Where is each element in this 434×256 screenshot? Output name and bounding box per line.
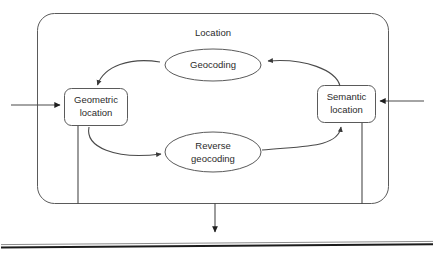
reverse-geocoding-label-line1: Reverse xyxy=(195,140,230,151)
semantic-location-label-line1: Semantic xyxy=(327,91,367,102)
geometric-location-label-line1: Geometric xyxy=(74,94,118,105)
geometric-location-label-line2: location xyxy=(80,107,113,118)
location-container-label: Location xyxy=(195,27,231,38)
reverse-geocoding-node[interactable]: Reverse geocoding xyxy=(165,132,261,172)
page-bottom-rule xyxy=(1,244,433,247)
geometric-location-node[interactable]: Geometric location xyxy=(65,89,128,126)
semantic-location-label-line2: location xyxy=(330,104,363,115)
edge-geocoding-to-geometric xyxy=(98,61,161,85)
geocoding-label: Geocoding xyxy=(190,59,236,70)
location-flow-diagram: Location Geocoding Reverse geocoding Geo… xyxy=(0,0,434,256)
diagram-canvas: Location Geocoding Reverse geocoding Geo… xyxy=(0,0,434,256)
reverse-geocoding-label-line2: geocoding xyxy=(191,153,235,164)
edge-semantic-to-geocoding xyxy=(268,61,340,86)
geocoding-node[interactable]: Geocoding xyxy=(165,49,261,81)
edge-geometric-to-reverse-geocoding xyxy=(89,127,161,155)
edge-reverse-geocoding-to-semantic xyxy=(262,127,341,150)
semantic-location-node[interactable]: Semantic location xyxy=(318,86,376,123)
